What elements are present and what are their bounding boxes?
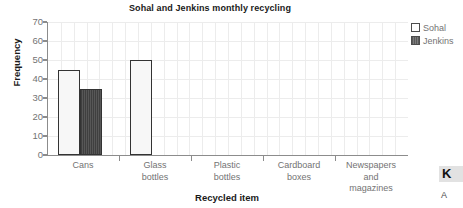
x-axis-tick-label-line: Plastic	[191, 160, 263, 172]
y-axis-tick-label: 10	[3, 131, 43, 141]
y-axis-tick-label: 70	[3, 17, 43, 27]
x-axis-tick-label-line: and	[335, 172, 407, 184]
legend-item-sohal[interactable]: Sohal	[411, 21, 463, 34]
x-axis-tick-label: Cans	[47, 160, 119, 172]
y-axis-tick-labels: 010203040506070	[0, 22, 43, 155]
legend-label: Jenkins	[423, 36, 454, 46]
x-axis-tick-label-line: Cans	[47, 160, 119, 172]
x-axis-tick-label-line: Glass	[119, 160, 191, 172]
plot-area	[47, 22, 408, 156]
y-axis-tick-label: 50	[3, 55, 43, 65]
recycling-bar-chart-figure: Sohal and Jenkins monthly recycling Freq…	[0, 0, 463, 208]
x-axis-tick-label-line: Newspapers	[335, 160, 407, 172]
y-axis-tick-label: 60	[3, 36, 43, 46]
bar-sohal-1	[130, 60, 152, 155]
chart-title: Sohal and Jenkins monthly recycling	[0, 3, 420, 13]
x-axis-tick-label-line: boxes	[263, 172, 335, 184]
x-axis-tick-label: Plasticbottles	[191, 160, 263, 183]
margin-letter-k: K	[439, 166, 463, 182]
y-axis-tick-label: 30	[3, 93, 43, 103]
y-axis-tick-label: 20	[3, 112, 43, 122]
margin-letter-a: A	[441, 190, 447, 200]
x-axis-tick-label: Newspapersandmagazines	[335, 160, 407, 195]
legend-item-jenkins[interactable]: Jenkins	[411, 34, 463, 47]
x-axis-tick-label: Cardboardboxes	[263, 160, 335, 183]
x-axis-tick-label-line: bottles	[119, 172, 191, 184]
bar-sohal-0	[58, 70, 80, 156]
y-axis-tick-label: 40	[3, 74, 43, 84]
bars-layer	[48, 22, 408, 155]
x-axis-tick-label-line: bottles	[191, 172, 263, 184]
x-axis-label: Recycled item	[47, 192, 407, 203]
bar-jenkins-0	[80, 89, 102, 156]
legend-label: Sohal	[423, 23, 446, 33]
open-square-swatch	[411, 23, 420, 32]
y-axis-tick-label: 0	[3, 150, 43, 160]
x-axis-tick-label-line: Cardboard	[263, 160, 335, 172]
chart-legend: SohalJenkins	[411, 21, 463, 47]
x-axis-tick-label: Glassbottles	[119, 160, 191, 183]
filled-square-swatch	[411, 36, 420, 45]
